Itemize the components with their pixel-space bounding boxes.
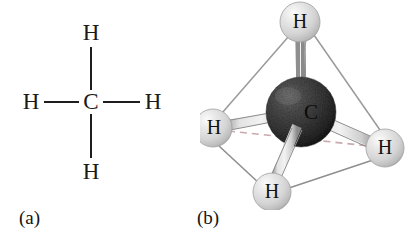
tetrahedron-edge-front-left-to-front-bottom (219, 146, 260, 184)
atom-label-hydrogen-right: H (141, 90, 165, 113)
hydrogen-sphere-front-left (200, 109, 232, 147)
panel-b-ball-and-stick-model: H H H H C (b) (200, 0, 417, 232)
caption-panel-b: (b) (197, 207, 219, 229)
hydrogen-sphere-front-bottom (253, 173, 291, 210)
bond-carbon-to-top-hydrogen (90, 47, 92, 90)
bond-carbon-to-bottom-hydrogen (90, 114, 92, 158)
hydrogen-sphere-front-right (366, 129, 404, 167)
ball-and-stick-svg (200, 0, 417, 210)
bond-carbon-to-left-hydrogen (44, 101, 79, 103)
caption-panel-a: (a) (19, 207, 40, 229)
panel-a-lewis-structure: H H C H H (a) (0, 0, 200, 232)
bond-carbon-to-right-hydrogen (103, 101, 140, 103)
hydrogen-sphere-top (280, 2, 320, 42)
methane-structures-figure: H H C H H (a) (0, 0, 417, 232)
tetrahedron-edge-front-bottom-to-front-right (289, 159, 376, 188)
atom-label-hydrogen-bottom: H (79, 160, 103, 183)
atom-label-carbon: C (79, 90, 103, 113)
atom-label-hydrogen-top: H (79, 21, 103, 44)
atom-label-hydrogen-left: H (19, 90, 43, 113)
carbon-sphere (266, 77, 336, 147)
